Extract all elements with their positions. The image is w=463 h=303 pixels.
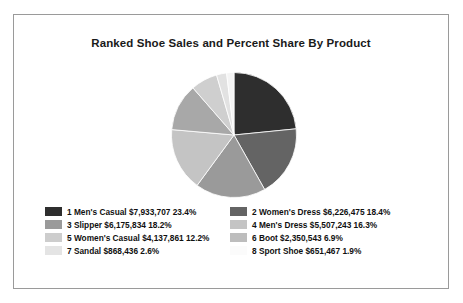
legend-item[interactable]: 4 Men's Dress $5,507,243 16.3% (230, 218, 425, 231)
legend-item-label: 2 Women's Dress $6,226,475 18.4% (252, 207, 390, 217)
legend-item[interactable]: 7 Sandal $868,436 2.6% (45, 244, 230, 257)
legend-item-label: 7 Sandal $868,436 2.6% (67, 246, 159, 256)
pie-slice-group (171, 73, 296, 198)
legend-item-label: 8 Sport Shoe $651,467 1.9% (252, 246, 361, 256)
pie-slice[interactable] (234, 73, 296, 136)
legend-item-label: 1 Men's Casual $7,933,707 23.4% (67, 207, 196, 217)
legend-color-swatch (45, 207, 62, 216)
legend-item[interactable]: 6 Boot $2,350,543 6.9% (230, 231, 425, 244)
legend-color-swatch (45, 246, 62, 255)
legend-item[interactable]: 5 Women's Casual $4,137,861 12.2% (45, 231, 230, 244)
legend-item[interactable]: 3 Slipper $6,175,834 18.2% (45, 218, 230, 231)
legend-color-swatch (230, 220, 247, 229)
chart-legend: 1 Men's Casual $7,933,707 23.4%2 Women's… (45, 205, 425, 257)
legend-color-swatch (45, 233, 62, 242)
chart-frame: Ranked Shoe Sales and Percent Share By P… (13, 14, 449, 289)
legend-item[interactable]: 2 Women's Dress $6,226,475 18.4% (230, 205, 425, 218)
legend-item-label: 6 Boot $2,350,543 6.9% (252, 233, 343, 243)
legend-color-swatch (230, 246, 247, 255)
legend-item-label: 4 Men's Dress $5,507,243 16.3% (252, 220, 377, 230)
legend-item[interactable]: 1 Men's Casual $7,933,707 23.4% (45, 205, 230, 218)
legend-color-swatch (230, 207, 247, 216)
pie-chart (171, 72, 297, 198)
legend-item-label: 5 Women's Casual $4,137,861 12.2% (67, 233, 210, 243)
legend-color-swatch (45, 220, 62, 229)
pie-chart-svg (171, 72, 297, 198)
legend-item-label: 3 Slipper $6,175,834 18.2% (67, 220, 172, 230)
legend-item[interactable]: 8 Sport Shoe $651,467 1.9% (230, 244, 425, 257)
chart-title: Ranked Shoe Sales and Percent Share By P… (14, 37, 448, 49)
legend-color-swatch (230, 233, 247, 242)
